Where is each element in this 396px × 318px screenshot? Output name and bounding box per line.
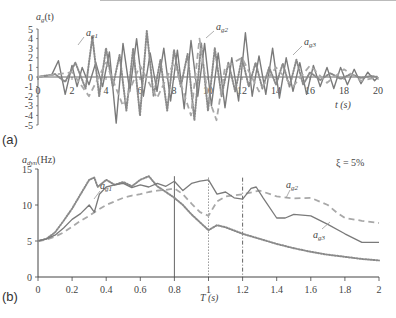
chart-a-xlabel: t (s)	[335, 99, 352, 111]
svg-text:1.6: 1.6	[305, 284, 318, 295]
legend-ag2-leader	[206, 31, 214, 38]
svg-text:2: 2	[70, 85, 75, 96]
svg-text:2: 2	[377, 284, 382, 295]
legend-ag1-top: ag1	[86, 27, 98, 40]
svg-text:1.2: 1.2	[236, 284, 249, 295]
svg-text:0: 0	[36, 284, 41, 295]
svg-text:12: 12	[237, 85, 247, 96]
damping-annotation: ξ = 5%	[336, 157, 364, 169]
chart-b-axes: 05101500.20.40.60.811.21.41.61.82	[22, 164, 382, 296]
svg-text:1.8: 1.8	[339, 284, 352, 295]
svg-text:10: 10	[22, 200, 32, 211]
chart-a-ylabel: ag(t)	[36, 11, 54, 24]
svg-text:0.4: 0.4	[100, 284, 113, 295]
legend-ag3-bottom: ag3	[313, 229, 326, 242]
svg-text:0.6: 0.6	[134, 284, 147, 295]
series-ag1	[38, 176, 379, 260]
svg-text:0: 0	[27, 272, 32, 283]
panel-label-b: (b)	[2, 289, 18, 304]
legend-ag2-bottom: ag2	[286, 179, 299, 192]
chart-b-series	[38, 176, 379, 260]
legend-ag3-leader	[293, 46, 302, 55]
svg-text:18: 18	[339, 85, 349, 96]
svg-text:0.2: 0.2	[66, 284, 79, 295]
legend-ag1-leader	[78, 37, 84, 45]
chart-b-xlabel: T (s)	[200, 292, 219, 304]
figure: 543210-1-2-3-4-502468101214161820 ag(t) …	[0, 0, 396, 318]
svg-text:0: 0	[36, 85, 41, 96]
svg-text:4: 4	[104, 85, 109, 96]
svg-text:1.4: 1.4	[270, 284, 283, 295]
panel-label-a: (a)	[2, 132, 18, 147]
chart-b-ylabel: adyn(Hz)	[22, 154, 55, 167]
svg-text:5: 5	[27, 236, 32, 247]
svg-text:20: 20	[373, 85, 383, 96]
legend-ag3-top: ag3	[304, 36, 317, 49]
legend-ag2-top: ag2	[216, 21, 229, 34]
legend-ag2-bottom-leader	[286, 190, 290, 198]
svg-text:0.8: 0.8	[168, 284, 181, 295]
svg-text:-5: -5	[25, 120, 33, 131]
